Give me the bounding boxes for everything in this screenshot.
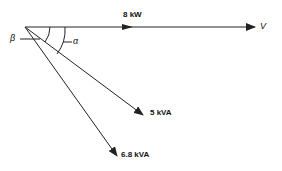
label-beta: β xyxy=(10,33,15,43)
real-power-arrowhead xyxy=(122,24,133,30)
phasor-diagram xyxy=(0,0,282,171)
angle-beta-arc xyxy=(45,27,50,42)
vector-6-8kva xyxy=(25,27,117,156)
angle-alpha-arc xyxy=(57,27,65,54)
label-6-8kva: 6.8 kVA xyxy=(121,150,149,159)
label-5kva: 5 kVA xyxy=(150,108,172,117)
vector-5kva xyxy=(25,27,143,115)
label-voltage: V xyxy=(260,21,266,31)
label-real-power: 8 kW xyxy=(123,10,142,19)
label-alpha: α xyxy=(73,36,78,46)
